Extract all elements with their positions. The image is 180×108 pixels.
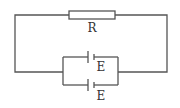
resistor-body xyxy=(69,11,115,19)
battery-bottom-branch: E xyxy=(63,79,118,103)
resistor: R xyxy=(69,11,115,35)
circuit-diagram: R E E xyxy=(0,0,180,108)
left-wire xyxy=(15,15,69,72)
parallel-branches: E E xyxy=(63,51,118,103)
battery-top-label: E xyxy=(97,60,106,74)
right-wire xyxy=(115,15,167,72)
battery-bottom-label: E xyxy=(97,89,106,103)
resistor-label: R xyxy=(87,21,97,35)
battery-top-branch: E xyxy=(63,51,118,74)
